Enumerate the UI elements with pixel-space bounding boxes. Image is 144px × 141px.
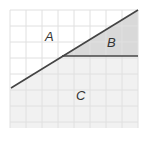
label-b: B — [107, 35, 116, 50]
region-diagram: A B C — [0, 0, 144, 141]
label-c: C — [76, 88, 86, 103]
label-a: A — [44, 29, 54, 44]
